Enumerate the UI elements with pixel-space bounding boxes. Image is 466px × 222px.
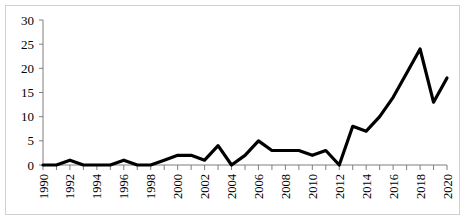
x-tick-label: 1992 <box>63 174 77 199</box>
x-tick-label: 1994 <box>90 173 104 199</box>
y-tick-label: 25 <box>21 37 34 52</box>
data-series-line <box>43 49 447 165</box>
x-tick-label: 2020 <box>441 174 455 199</box>
x-tick-label: 2002 <box>198 174 212 199</box>
x-axis-tick-labels: 1990199219941996199820002002200420062008… <box>37 173 455 199</box>
axes <box>43 20 447 165</box>
x-tick-label: 1996 <box>117 174 131 199</box>
x-tick-label: 2010 <box>306 174 320 199</box>
y-tick-label: 0 <box>28 158 35 173</box>
x-tick-label: 2008 <box>279 174 293 199</box>
x-tick-label: 2006 <box>252 174 266 199</box>
x-tick-label: 1998 <box>144 174 158 199</box>
x-tick-label: 2016 <box>387 174 401 199</box>
x-tick-label: 2004 <box>225 173 239 199</box>
line-chart: 051015202530 199019921994199619982000200… <box>0 0 466 222</box>
x-tick-label: 2018 <box>414 174 428 199</box>
x-tick-label: 2014 <box>360 173 374 199</box>
y-tick-label: 5 <box>28 133 35 148</box>
y-tick-label: 10 <box>21 109 34 124</box>
y-tick-label: 20 <box>21 61 34 76</box>
y-tick-label: 30 <box>21 13 34 28</box>
tick-marks <box>39 20 447 170</box>
x-tick-label: 2000 <box>171 174 185 199</box>
x-tick-label: 2012 <box>333 174 347 199</box>
y-axis-tick-labels: 051015202530 <box>21 13 34 173</box>
y-tick-label: 15 <box>21 85 34 100</box>
x-tick-label: 1990 <box>37 174 51 199</box>
